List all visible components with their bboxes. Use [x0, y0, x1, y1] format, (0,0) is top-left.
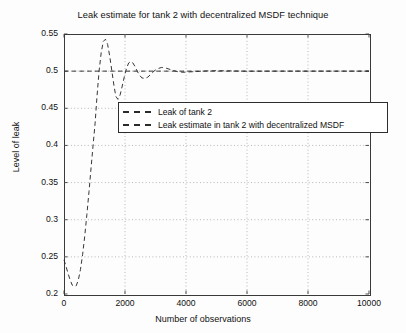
y-tick-label: 0.55 [12, 28, 58, 38]
plot-area [64, 34, 371, 296]
legend-item-leak-estimate-msdf: Leak estimate in tank 2 with decentraliz… [119, 118, 344, 132]
chart-legend: Leak of tank 2 Leak estimate in tank 2 w… [118, 102, 388, 133]
x-tick-label: 2000 [95, 298, 155, 308]
y-tick-label: 0.25 [12, 251, 58, 261]
figure-canvas: Leak estimate for tank 2 with decentrali… [0, 0, 406, 333]
x-tick-label: 0 [34, 298, 94, 308]
legend-swatch-dashed-line [123, 124, 153, 126]
y-tick-label: 0.3 [12, 214, 58, 224]
chart-title: Leak estimate for tank 2 with decentrali… [0, 10, 406, 20]
x-tick-label: 8000 [278, 298, 338, 308]
y-tick-label: 0.5 [12, 65, 58, 75]
y-axis-label: Level of leak [11, 97, 21, 197]
legend-label: Leak of tank 2 [158, 107, 212, 117]
legend-item-leak-of-tank-2: Leak of tank 2 [119, 105, 212, 119]
x-tick-label: 6000 [217, 298, 277, 308]
x-tick-label: 4000 [156, 298, 216, 308]
x-tick-label: 10000 [339, 298, 399, 308]
legend-label: Leak estimate in tank 2 with decentraliz… [158, 120, 344, 130]
x-axis-label: Number of observations [0, 314, 406, 324]
y-tick-label: 0.2 [12, 288, 58, 298]
legend-swatch-dashed-line [123, 111, 153, 113]
